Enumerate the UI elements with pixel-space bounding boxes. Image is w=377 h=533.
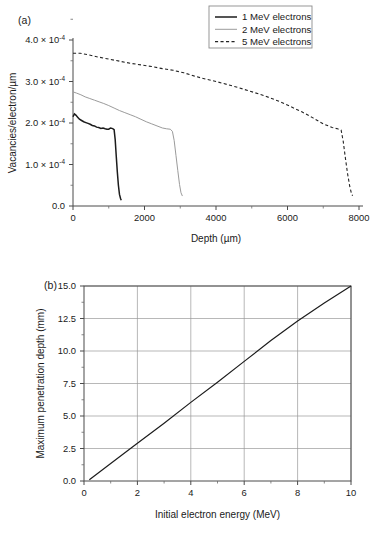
panel-a-y-ticklabel: 4.0 × 10-4 [25, 34, 65, 46]
panel-b-plot: 0.02.55.07.510.012.515.00246810Initial e… [0, 266, 377, 533]
panel-a-legend-label: 5 MeV electrons [242, 36, 312, 47]
panel-b-y-ticklabel: 2.5 [63, 443, 76, 454]
panel-b-label: (b) [44, 279, 57, 291]
panel-a-plot: 0.01.0 × 10-42.0 × 10-43.0 × 10-44.0 × 1… [0, 0, 377, 266]
panel-a-x-ticklabel: 2000 [134, 212, 155, 223]
panel-a-x-ticklabel: 0 [70, 212, 75, 223]
panel-a-x-ticklabel: 4000 [206, 212, 227, 223]
panel-a-legend-label: 1 MeV electrons [242, 11, 312, 22]
panel-a-label: (a) [18, 14, 31, 26]
panel-b-x-ticklabel: 8 [295, 487, 300, 498]
panel-b-series-line [89, 286, 351, 480]
panel-a: (a) 0.01.0 × 10-42.0 × 10-43.0 × 10-44.0… [0, 0, 377, 266]
panel-a-legend-label: 2 MeV electrons [242, 24, 312, 35]
panel-a-x-axis-title: Depth (µm) [191, 233, 241, 244]
panel-b-x-ticklabel: 0 [81, 487, 86, 498]
panel-b-x-ticklabel: 10 [346, 487, 356, 498]
panel-b-x-ticklabel: 2 [135, 487, 140, 498]
panel-a-series-line [73, 92, 182, 196]
panel-b-y-axis-title: Maximum penetration depth (mm) [35, 308, 46, 458]
panel-b-x-axis-title: Initial electron energy (MeV) [155, 509, 280, 520]
panel-b-y-ticklabel: 15.0 [58, 280, 76, 291]
panel-a-y-ticklabel: 0.0 [52, 200, 65, 211]
panel-b-y-ticklabel: 10.0 [58, 345, 76, 356]
panel-b-y-ticklabel: 12.5 [58, 313, 76, 324]
panel-a-series-line [73, 114, 121, 200]
panel-b-x-ticklabel: 6 [242, 487, 247, 498]
panel-b-y-ticklabel: 0.0 [63, 475, 76, 486]
panel-b: (b) 0.02.55.07.510.012.515.00246810Initi… [0, 266, 377, 533]
figure-container: (a) 0.01.0 × 10-42.0 × 10-43.0 × 10-44.0… [0, 0, 377, 533]
panel-a-y-ticklabel: 3.0 × 10-4 [25, 75, 65, 87]
panel-a-y-axis-title: Vacancies/electron/µm [7, 73, 18, 174]
panel-b-x-ticklabel: 4 [188, 487, 193, 498]
panel-b-y-ticklabel: 5.0 [63, 410, 76, 421]
panel-a-x-ticklabel: 6000 [277, 212, 298, 223]
panel-b-y-ticklabel: 7.5 [63, 378, 76, 389]
panel-a-y-ticklabel: 1.0 × 10-4 [25, 158, 65, 170]
panel-a-x-ticklabel: 8000 [349, 212, 370, 223]
panel-a-y-ticklabel: 2.0 × 10-4 [25, 117, 65, 129]
panel-a-series-line [73, 53, 353, 195]
